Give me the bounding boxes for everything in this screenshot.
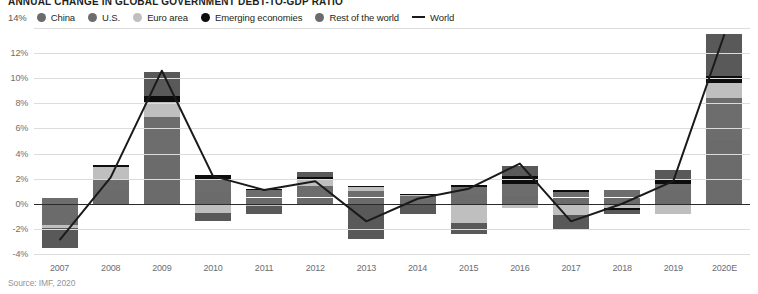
gridline <box>34 128 750 129</box>
bar-segment <box>553 190 589 193</box>
legend-line-icon <box>412 16 425 18</box>
bar-segment <box>144 72 180 96</box>
bar-group[interactable]: 2015 <box>451 28 487 254</box>
x-axis-tick-label: 2010 <box>195 263 231 273</box>
bar-group[interactable]: 2019 <box>655 28 691 254</box>
bar-group[interactable]: 2016 <box>502 28 538 254</box>
bar-segment <box>348 204 384 239</box>
legend-item-label: Rest of the world <box>329 12 399 23</box>
y-axis-tick-label: 10% <box>11 73 28 83</box>
plot-area: 2007200820092010201120122013201420152016… <box>34 28 750 254</box>
bar-segment <box>706 98 742 139</box>
bar-segment <box>553 215 589 229</box>
chart-root: ANNUAL CHANGE IN GLOBAL GOVERNMENT DEBT-… <box>0 0 758 294</box>
bar-segment <box>400 196 436 200</box>
y-axis-tick-label: -2% <box>13 224 28 234</box>
legend-item-label: Emerging economies <box>215 12 302 23</box>
legend-item-world[interactable]: World <box>412 12 454 23</box>
bars-layer: 2007200820092010201120122013201420152016… <box>34 28 750 254</box>
bar-segment <box>297 179 333 187</box>
gridline <box>34 53 750 54</box>
bar-segment <box>553 204 589 215</box>
zero-axis-line <box>34 204 750 206</box>
bar-group[interactable]: 2013 <box>348 28 384 254</box>
y-axis-tick-label: 4% <box>15 149 28 159</box>
bar-segment <box>502 184 538 197</box>
bar-segment <box>195 213 231 222</box>
legend-item-label: U.S. <box>102 12 120 23</box>
x-axis-tick-label: 2016 <box>502 263 538 273</box>
gridline <box>34 28 750 29</box>
bar-group[interactable]: 2009 <box>144 28 180 254</box>
bar-segment <box>42 228 78 248</box>
bar-group[interactable]: 2007 <box>42 28 78 254</box>
x-axis-tick-label: 2014 <box>400 263 436 273</box>
x-axis-tick-label: 2013 <box>348 263 384 273</box>
bar-segment <box>604 210 640 214</box>
bar-segment <box>93 165 129 168</box>
x-axis-tick-label: 2020E <box>706 263 742 273</box>
bar-segment <box>195 179 231 193</box>
legend-dot-icon <box>37 13 46 22</box>
bar-segment <box>400 195 436 196</box>
legend-item-u-s[interactable]: U.S. <box>88 12 120 23</box>
legend-dot-icon <box>315 13 324 22</box>
legend-item-emerging-economies[interactable]: Emerging economies <box>201 12 302 23</box>
y-axis-tick-label: 2% <box>15 174 28 184</box>
bar-segment <box>706 83 742 98</box>
bar-segment <box>706 76 742 84</box>
bar-segment <box>144 117 180 156</box>
gridline <box>34 154 750 155</box>
x-axis-tick-label: 2012 <box>297 263 333 273</box>
bar-segment <box>604 190 640 198</box>
legend-item-label: Euro area <box>147 12 188 23</box>
bar-segment <box>502 166 538 176</box>
bar-segment <box>451 194 487 204</box>
bar-segment <box>42 204 78 225</box>
bar-segment <box>451 187 487 193</box>
bar-segment <box>144 96 180 102</box>
gridline <box>34 229 750 230</box>
bar-segment <box>93 190 129 204</box>
bar-group[interactable]: 2008 <box>93 28 129 254</box>
bar-segment <box>246 189 282 190</box>
bar-segment <box>706 34 742 75</box>
bar-group[interactable]: 2011 <box>246 28 282 254</box>
bar-segment <box>502 176 538 184</box>
bar-segment <box>195 192 231 203</box>
y-axis-tick-label: -4% <box>13 249 28 259</box>
bar-group[interactable]: 2017 <box>553 28 589 254</box>
x-axis-tick-label: 2007 <box>42 263 78 273</box>
bar-segment <box>93 167 129 178</box>
bar-segment <box>348 187 384 191</box>
bar-segment <box>655 190 691 204</box>
legend-dot-icon <box>133 13 142 22</box>
x-axis-tick-label: 2015 <box>451 263 487 273</box>
bar-group[interactable]: 2018 <box>604 28 640 254</box>
x-axis-tick-label: 2019 <box>655 263 691 273</box>
bar-segment <box>502 196 538 204</box>
bar-segment <box>451 185 487 188</box>
legend-item-china[interactable]: China <box>37 12 75 23</box>
bar-segment <box>553 192 589 197</box>
bar-group[interactable]: 2014 <box>400 28 436 254</box>
bar-group[interactable]: 2012 <box>297 28 333 254</box>
bar-segment <box>348 186 384 187</box>
legend-dot-icon <box>201 13 210 22</box>
legend-item-rest-of-the-world[interactable]: Rest of the world <box>315 12 399 23</box>
legend-dot-icon <box>88 13 97 22</box>
bar-segment <box>246 190 282 198</box>
axis-baseline <box>34 254 750 255</box>
bar-segment <box>400 204 436 214</box>
legend-item-euro-area[interactable]: Euro area <box>133 12 188 23</box>
x-axis-tick-label: 2009 <box>144 263 180 273</box>
y-axis-tick-label: 12% <box>11 48 28 58</box>
x-axis-tick-label: 2008 <box>93 263 129 273</box>
y-axis-tick-label: 8% <box>15 98 28 108</box>
bar-group[interactable]: 2020E <box>706 28 742 254</box>
y-axis-tick-label: 6% <box>15 123 28 133</box>
bar-group[interactable]: 2010 <box>195 28 231 254</box>
bar-segment <box>297 186 333 197</box>
y-axis-tick-label: 0% <box>15 199 28 209</box>
gridline <box>34 78 750 79</box>
